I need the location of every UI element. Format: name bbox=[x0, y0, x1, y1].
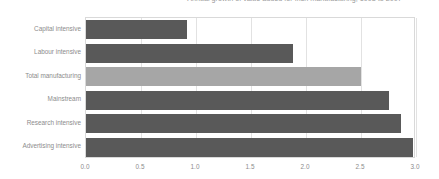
bar-row bbox=[86, 67, 414, 86]
category-label-1: Labour intensive bbox=[0, 48, 81, 56]
plot-area bbox=[85, 17, 415, 158]
category-label-2: Total manufacturing bbox=[0, 72, 81, 80]
bar-row bbox=[86, 44, 414, 63]
bar-row bbox=[86, 20, 414, 39]
x-tick-label-0: 0.0 bbox=[81, 163, 90, 171]
bar-chart: Annual growth of value added for Irish m… bbox=[0, 0, 439, 179]
bar bbox=[86, 20, 187, 39]
bar bbox=[86, 44, 293, 63]
category-label-3: Mainstream bbox=[0, 95, 81, 103]
gridline bbox=[416, 18, 417, 157]
bar-row bbox=[86, 138, 414, 157]
x-tick-label-2: 1.0 bbox=[191, 163, 200, 171]
bars-layer bbox=[86, 18, 414, 157]
bar bbox=[86, 91, 389, 110]
x-tick-label-5: 2.5 bbox=[356, 163, 365, 171]
category-label-5: Advertising intensive bbox=[0, 142, 81, 150]
bar bbox=[86, 114, 401, 133]
chart-title: Annual growth of value added for Irish m… bbox=[150, 0, 439, 3]
bar bbox=[86, 67, 361, 86]
category-label-0: Capital intensive bbox=[0, 25, 81, 33]
x-tick-label-3: 1.5 bbox=[246, 163, 255, 171]
bar-row bbox=[86, 91, 414, 110]
x-tick-label-4: 2.0 bbox=[301, 163, 310, 171]
x-tick-label-6: 3.0 bbox=[411, 163, 420, 171]
category-label-4: Research intensive bbox=[0, 119, 81, 127]
x-tick-label-1: 0.5 bbox=[136, 163, 145, 171]
bar-row bbox=[86, 114, 414, 133]
bar bbox=[86, 138, 413, 157]
